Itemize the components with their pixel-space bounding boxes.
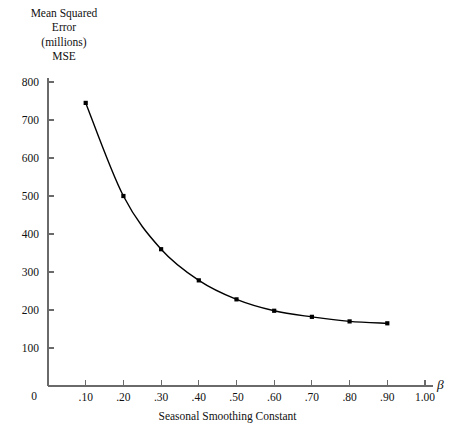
y-tick-label: 700 [22, 114, 40, 126]
data-series-markers [84, 101, 390, 326]
y-tick-label: 500 [22, 190, 40, 202]
x-axis-ticks: .10.20.30.40.50.60.70.80.901.00 [79, 380, 436, 403]
data-point-marker [121, 194, 125, 198]
x-tick-label: .90 [380, 391, 395, 403]
x-tick-label: .70 [305, 391, 320, 403]
x-axis-caption: Seasonal Smoothing Constant [0, 410, 455, 422]
y-tick-label: 800 [22, 76, 40, 88]
y-tick-label: 100 [22, 342, 40, 354]
data-point-marker [84, 101, 88, 105]
chart-container: Mean Squared Error (millions) MSE 010020… [0, 0, 455, 441]
y-tick-label: 400 [22, 228, 40, 240]
y-axis-ticks: 0100200300400500600700800 [22, 76, 54, 402]
x-axis-symbol-beta: β [436, 377, 444, 392]
x-tick-label: .10 [79, 391, 94, 403]
x-tick-label: .40 [192, 391, 207, 403]
data-point-marker [159, 247, 163, 251]
data-point-marker [348, 319, 352, 323]
data-point-marker [197, 278, 201, 282]
x-tick-label: 1.00 [415, 391, 435, 403]
x-tick-label: .20 [116, 391, 131, 403]
data-point-marker [272, 309, 276, 313]
y-tick-label: 200 [22, 304, 40, 316]
y-tick-label: 600 [22, 152, 40, 164]
data-point-marker [234, 297, 238, 301]
y-tick-label: 0 [31, 390, 37, 402]
data-series-line [86, 103, 388, 323]
x-tick-label: .50 [229, 391, 244, 403]
y-tick-label: 300 [22, 266, 40, 278]
x-tick-label: .80 [342, 391, 357, 403]
x-tick-label: .60 [267, 391, 282, 403]
data-point-marker [385, 321, 389, 325]
x-tick-label: .30 [154, 391, 169, 403]
plot-area: 0100200300400500600700800 .10.20.30.40.5… [0, 0, 455, 441]
data-point-marker [310, 315, 314, 319]
